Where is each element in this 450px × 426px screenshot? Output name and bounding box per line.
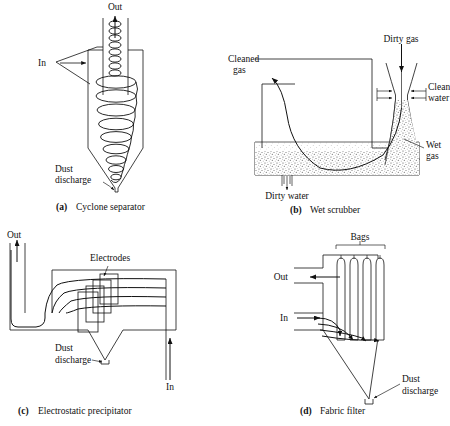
esp-in-label: In [166,382,174,392]
filter-bags [337,258,384,340]
scrubber-dirty-gas-label: Dirty gas [383,34,418,44]
scrubber-wet-gas-region [385,100,419,165]
cyclone-dust-outlet [115,188,118,192]
scrubber-cleaned-gas-label-line2: gas [233,65,246,75]
panel-cyclone-separator: Out In Dust discharge (a) Cyclone separa… [38,2,146,213]
filter-dust-outlet [365,399,373,404]
esp-hopper-outline [10,330,176,360]
cyclone-dust-label-line2: discharge [55,175,91,185]
cyclone-outer-vortex-helix [96,76,136,180]
filter-bag-hangers [341,255,380,259]
panel-d-caption-text: Fabric filter [320,406,366,416]
panel-wet-scrubber: Cleaned gas Dirty gas Clean water Wet ga… [228,34,450,216]
panel-c-caption-text: Electrostatic precipitator [38,406,132,416]
scrubber-wet-gas-label-line1: Wet [426,140,441,150]
panel-a-caption-letter: (a) [56,202,67,213]
filter-dust-leader [374,384,400,398]
filter-bags-label: Bags [351,232,370,242]
scrubber-dirty-water-label: Dirty water [265,191,309,201]
filter-upper-step [294,255,323,268]
filter-dust-label-line2: discharge [402,386,438,396]
scrubber-clean-water-label-line1: Clean [428,82,450,92]
cyclone-dust-leader [103,182,114,190]
panel-c-caption-letter: (c) [18,406,29,417]
filter-mid-step [294,283,323,313]
esp-dust-leader [92,360,102,362]
esp-electrodes-label: Electrodes [90,253,130,263]
scrubber-clean-water-label-line2: water [428,93,450,103]
esp-dust-label-line1: Dust [55,343,73,353]
filter-dust-label-line1: Dust [402,374,420,384]
air-pollution-control-devices-figure: Out In Dust discharge (a) Cyclone separa… [0,0,450,426]
esp-gas-streamlines [45,279,166,313]
panel-a-caption-text: Cyclone separator [76,202,146,212]
panel-b-caption-letter: (b) [290,205,302,216]
esp-electrodes-leader [104,266,108,276]
filter-out-label: Out [274,272,289,282]
cyclone-body-right [118,50,143,188]
filter-bags-brace [336,245,385,249]
scrubber-wet-gas-label-line2: gas [426,151,439,161]
filter-in-label: In [280,313,288,323]
panel-electrostatic-precipitator: Out In Electrodes Dust discharge (c) Ele… [7,230,176,417]
cyclone-in-label: In [38,58,46,68]
cyclone-dust-label-line1: Dust [55,164,73,174]
panel-d-caption-letter: (d) [300,406,312,417]
panel-fabric-filter: Bags Out In Dust discharge (d) Fabric fi… [274,232,438,417]
esp-out-label: Out [7,230,22,240]
scrubber-cleaned-gas-label-line1: Cleaned [228,54,259,64]
cyclone-inlet-top-edge [56,47,97,62]
panel-b-caption-text: Wet scrubber [310,205,361,215]
esp-dust-label-line2: discharge [55,355,91,365]
cyclone-out-label: Out [108,2,123,12]
esp-electrode-plates [78,274,118,332]
cyclone-inlet-bottom-edge [56,62,90,84]
